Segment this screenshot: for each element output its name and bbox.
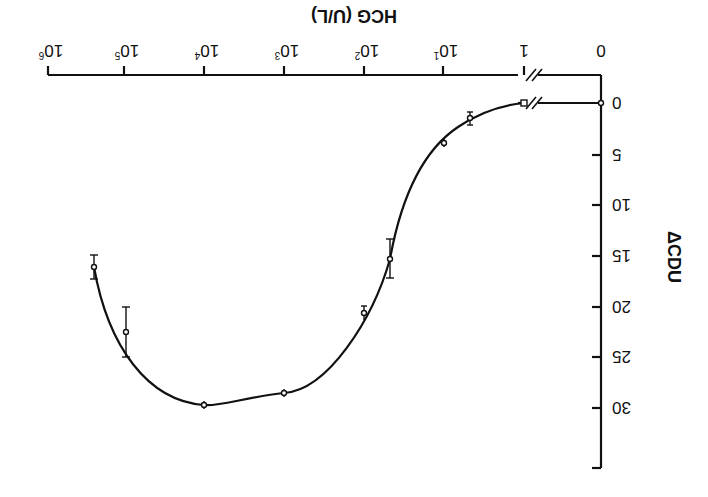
- x-tick-label-10-2: 102: [354, 41, 379, 61]
- point-250000: [90, 255, 98, 279]
- y-tick-label-20: 20: [612, 297, 631, 316]
- x-tick-label-10-5: 105: [114, 41, 139, 61]
- point-1: [521, 100, 527, 106]
- x-tick-label-10-1: 101: [433, 41, 458, 61]
- y-axis: [592, 103, 601, 468]
- point-10000: [202, 401, 207, 409]
- y-tick-labels: 0 5 10 15 20 25 30: [612, 93, 631, 417]
- x-tick-labels: 0 1 101 102 103 104 105 106: [38, 41, 605, 61]
- rotated-plot: 0 1 101 102 103 104 105 106 HCG (U/L) 0 …: [38, 6, 684, 468]
- point-1000: [282, 389, 287, 397]
- y-tick-label-10: 10: [612, 195, 631, 214]
- data-curve: [94, 97, 601, 405]
- x-tick-label-10-3: 103: [274, 41, 299, 61]
- y-tick-label-25: 25: [612, 347, 631, 366]
- x-tick-label-10-4: 104: [194, 41, 219, 61]
- y-tick-label-5: 5: [612, 145, 621, 164]
- point-0: [599, 101, 604, 106]
- x-axis-title: HCG (U/L): [311, 6, 397, 26]
- y-tick-label-0: 0: [612, 93, 621, 112]
- y-axis-title: ΔCDU: [664, 231, 684, 283]
- x-tick-label-1: 1: [519, 41, 528, 60]
- chart-container: 0 1 101 102 103 104 105 106 HCG (U/L) 0 …: [0, 0, 708, 497]
- y-tick-label-15: 15: [612, 246, 631, 265]
- chart-svg: 0 1 101 102 103 104 105 106 HCG (U/L) 0 …: [0, 0, 708, 497]
- x-tick-label-0: 0: [596, 41, 605, 60]
- x-axis: [48, 66, 601, 103]
- data-points: [90, 100, 604, 409]
- x-tick-label-10-6: 106: [38, 41, 63, 61]
- y-tick-label-30: 30: [612, 398, 631, 417]
- point-5: [467, 112, 473, 125]
